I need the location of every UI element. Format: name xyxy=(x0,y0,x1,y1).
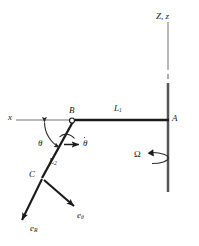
link-l2-label: L2 xyxy=(49,157,57,167)
theta-dot-label: θ xyxy=(83,139,87,148)
omega-spin-ellipse xyxy=(152,153,168,164)
unit-vector-er-arrow xyxy=(22,179,42,220)
point-b-label: B xyxy=(69,106,75,115)
figure-canvas xyxy=(0,0,199,246)
theta-angle-arc xyxy=(45,123,60,148)
kinematics-figure: Z, z x A B C L1 L2 θ θ Ω eR eθ xyxy=(0,0,199,246)
link-l2-bar xyxy=(42,123,73,179)
omega-spin-arrowhead xyxy=(148,149,154,156)
unit-vector-er-label: eR xyxy=(30,224,37,234)
omega-label: Ω xyxy=(134,150,141,159)
unit-vector-etheta-arrow xyxy=(44,180,74,206)
point-a-label: A xyxy=(172,114,178,123)
x-axis-label: x xyxy=(8,113,12,122)
pin-joint-b-icon xyxy=(70,118,75,123)
unit-vector-etheta-label: eθ xyxy=(77,211,84,221)
point-c-label: C xyxy=(29,170,35,179)
vertical-axis-label: Z, z xyxy=(156,12,169,21)
link-l1-label: L1 xyxy=(114,104,122,114)
theta-label: θ xyxy=(38,139,42,148)
